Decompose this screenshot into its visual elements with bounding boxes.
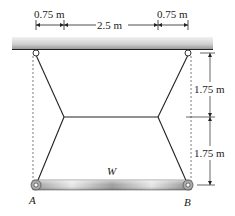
upper-height-label: 1.75 m <box>194 83 225 95</box>
right-offset-label: 0.75 m <box>157 8 188 20</box>
cable-beam-diagram: 0.75 m 2.5 m 0.75 m W A B <box>0 0 235 216</box>
reference-lines <box>33 56 191 180</box>
middle-span-label: 2.5 m <box>97 19 123 31</box>
point-a-label: A <box>28 194 36 206</box>
lower-height-label: 1.75 m <box>194 147 225 159</box>
ceiling-support <box>12 37 213 50</box>
top-dimension: 0.75 m 2.5 m 0.75 m <box>34 8 188 31</box>
top-pins <box>33 50 191 56</box>
load-label: W <box>107 165 117 177</box>
beam <box>31 180 193 190</box>
point-b-label: B <box>184 196 191 208</box>
right-dimension: 1.75 m 1.75 m <box>186 53 235 185</box>
left-offset-label: 0.75 m <box>34 8 65 20</box>
